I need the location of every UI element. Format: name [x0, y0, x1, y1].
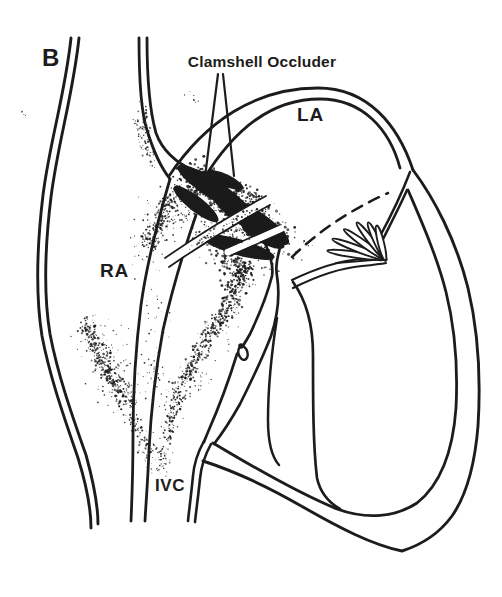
mitral-valve-detail	[292, 193, 389, 288]
diagram-labels: B Clamshell Occluder LA RA IVC	[42, 44, 336, 495]
lv-left-inner-wall-line	[293, 282, 340, 509]
la-label: LA	[297, 104, 324, 125]
septal-nub	[237, 343, 249, 361]
heart-occluder-diagram: B Clamshell Occluder LA RA IVC	[0, 0, 502, 597]
ivc-channel-left-line	[131, 179, 170, 521]
panel-label: B	[42, 44, 60, 71]
la-dome-outer-line	[169, 88, 413, 176]
posterior-leaflet-line-1	[293, 263, 386, 288]
annulus-leg-outer-line	[379, 172, 410, 238]
svc-outer-wall-line	[139, 38, 170, 179]
annulus-leg-inner-line	[381, 190, 407, 243]
lateral-wall-inner-line	[46, 38, 98, 524]
heart-outline-lines	[38, 38, 480, 551]
septum-channel-left-line	[204, 233, 272, 442]
ra-label: RA	[100, 260, 129, 281]
chordae-fan	[327, 221, 389, 263]
device-label: Clamshell Occluder	[188, 53, 336, 70]
medical-diagram-page: B Clamshell Occluder LA RA IVC	[0, 0, 502, 597]
ivc-label: IVC	[155, 476, 185, 495]
pointer-line-right	[223, 74, 234, 176]
